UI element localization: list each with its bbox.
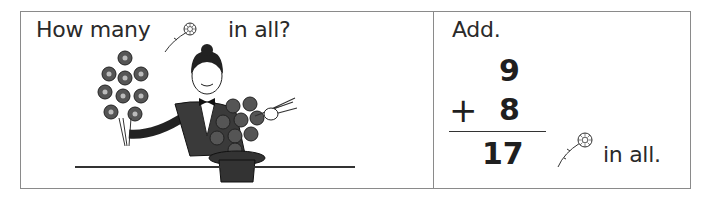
plus-sign: + [449, 90, 478, 130]
panel-divider [433, 11, 434, 189]
sum-rule [449, 131, 546, 132]
magician-illustration [95, 46, 315, 186]
in-all-suffix: in all. [603, 142, 661, 167]
flower-icon [556, 131, 596, 169]
add-instruction: Add. [452, 17, 500, 42]
addend-bottom: 8 [499, 92, 520, 127]
question-text-after: in all? [228, 17, 290, 42]
table-edge-line [75, 166, 355, 168]
addend-top: 9 [499, 53, 520, 88]
question-text-before: How many [36, 17, 150, 42]
sum-answer: 17 [482, 136, 524, 171]
